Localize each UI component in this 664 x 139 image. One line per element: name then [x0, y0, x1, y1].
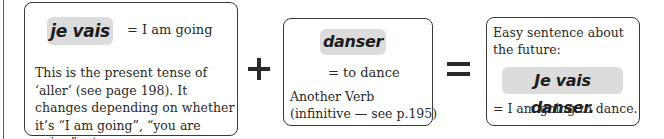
- infinitive-verb-box: danser = to dance Another Verb (infiniti…: [283, 18, 433, 126]
- result-sentence-box: Easy sentence about the future: Je vais …: [486, 17, 640, 126]
- page-edge-divider: [3, 0, 4, 139]
- aller-explanation: This is the present tense of ‘aller’ (se…: [35, 64, 235, 139]
- danser-translation: = to dance: [328, 65, 400, 81]
- verb-aller-box: je vais = I am going This is the present…: [24, 2, 238, 136]
- sentence-translation: = I am going to dance.: [493, 101, 638, 117]
- infinitive-label: Another Verb (infinitive — see p.195): [290, 88, 437, 122]
- infinitive-label-line2: (infinitive — see p.195): [290, 105, 437, 122]
- french-phrase-je-vais: je vais: [47, 17, 113, 45]
- je-vais-translation: = I am going: [127, 22, 213, 38]
- plus-icon: [248, 58, 270, 80]
- result-intro: Easy sentence about the future:: [493, 24, 624, 58]
- french-sentence-je-vais-danser: Je vais danser.: [502, 67, 623, 94]
- french-word-danser: danser: [320, 29, 386, 55]
- equals-icon: [447, 62, 470, 76]
- infinitive-label-line1: Another Verb: [290, 88, 437, 105]
- result-intro-line1: Easy sentence about: [493, 24, 624, 41]
- result-intro-line2: the future:: [493, 41, 624, 58]
